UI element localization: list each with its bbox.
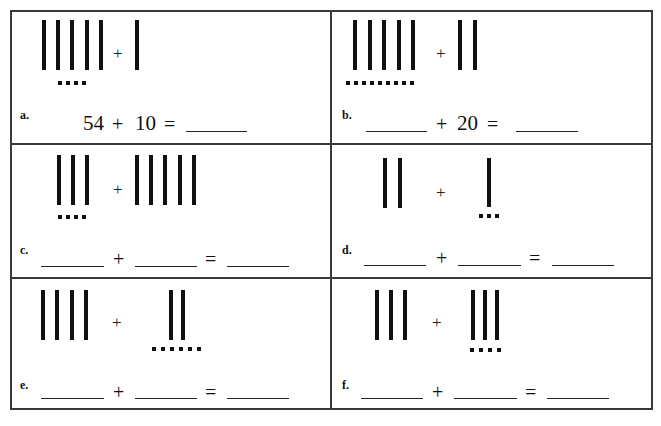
problem-label: e. — [20, 378, 28, 393]
ones-dots — [470, 348, 501, 352]
ten-bar — [56, 20, 60, 70]
ten-bar — [99, 20, 103, 70]
problem-label: f. — [342, 378, 349, 393]
addend-2-blank[interactable] — [135, 266, 197, 267]
sum-blank[interactable] — [186, 131, 247, 132]
ones-dots — [479, 214, 499, 218]
equals-sign: = — [529, 248, 540, 268]
addend-2: 10 — [135, 113, 156, 134]
ten-bar — [85, 155, 89, 205]
addend-1: 54 — [83, 113, 104, 134]
sum-blank[interactable] — [227, 266, 289, 267]
addend-1-blank[interactable] — [41, 398, 104, 399]
plus-sign: + — [113, 249, 124, 269]
ten-bar — [368, 20, 372, 70]
ten-bar — [71, 155, 75, 205]
addend-1-blank[interactable] — [366, 131, 427, 132]
equals-sign: = — [205, 249, 216, 269]
ten-bar — [169, 290, 173, 340]
sum-blank[interactable] — [552, 265, 614, 266]
ones-dots — [346, 81, 414, 85]
ones-dots — [152, 347, 201, 351]
sum-blank[interactable] — [516, 131, 578, 132]
sum-blank[interactable] — [227, 398, 289, 399]
grid-divider-row-2 — [10, 277, 653, 279]
ones-dots — [58, 215, 86, 219]
ten-bar — [135, 20, 139, 70]
plus-sign: + — [436, 114, 447, 134]
ten-bar — [383, 158, 387, 208]
ten-bar — [483, 290, 487, 340]
ten-bar — [411, 20, 415, 70]
ones-dots — [58, 81, 86, 85]
plus-sign: + — [112, 114, 123, 134]
ten-bar — [181, 290, 185, 340]
equals-sign: = — [164, 114, 175, 134]
ten-bar — [398, 158, 402, 208]
addend-2-blank[interactable] — [458, 265, 521, 266]
ten-bar — [375, 290, 379, 340]
ten-bar — [57, 155, 61, 205]
ten-bar — [458, 20, 462, 70]
sum-blank[interactable] — [547, 398, 609, 399]
ten-bar — [495, 290, 499, 340]
ten-bar — [353, 20, 357, 70]
grid-divider-vertical — [330, 10, 332, 410]
ten-bar — [382, 20, 386, 70]
plus-sign: + — [436, 248, 447, 268]
tally-plus: + — [112, 314, 122, 331]
addend-2-blank[interactable] — [454, 398, 517, 399]
ten-bar — [389, 290, 393, 340]
ten-bar — [473, 20, 477, 70]
equals-sign: = — [205, 382, 216, 402]
tally-plus: + — [436, 184, 446, 201]
addend-2: 20 — [457, 113, 478, 134]
ten-bar — [471, 290, 475, 340]
plus-sign: + — [113, 382, 124, 402]
tally-plus: + — [113, 181, 123, 198]
tally-plus: + — [113, 45, 123, 62]
addend-2-blank[interactable] — [135, 398, 197, 399]
ten-bar — [85, 20, 89, 70]
ten-bar — [403, 290, 407, 340]
ten-bar — [70, 290, 74, 340]
addend-1-blank[interactable] — [41, 266, 104, 267]
problem-label: c. — [20, 243, 28, 258]
ten-bar — [84, 290, 88, 340]
addend-1-blank[interactable] — [364, 265, 426, 266]
equals-sign: = — [525, 382, 536, 402]
ten-bar — [487, 158, 491, 207]
ten-bar — [163, 155, 167, 205]
tally-plus: + — [436, 45, 446, 62]
ten-bar — [135, 155, 139, 205]
ten-bar — [192, 155, 196, 205]
problem-label: a. — [20, 108, 29, 123]
ten-bar — [178, 155, 182, 205]
ten-bar — [149, 155, 153, 205]
ten-bar — [42, 20, 46, 70]
grid-divider-row-1 — [10, 143, 653, 145]
plus-sign: + — [432, 382, 443, 402]
ten-bar — [55, 290, 59, 340]
ten-bar — [70, 20, 74, 70]
equals-sign: = — [487, 114, 498, 134]
problem-label: d. — [342, 243, 352, 258]
problem-label: b. — [342, 108, 352, 123]
ten-bar — [397, 20, 401, 70]
addend-1-blank[interactable] — [361, 398, 423, 399]
tally-plus: + — [432, 314, 442, 331]
ten-bar — [41, 290, 45, 340]
